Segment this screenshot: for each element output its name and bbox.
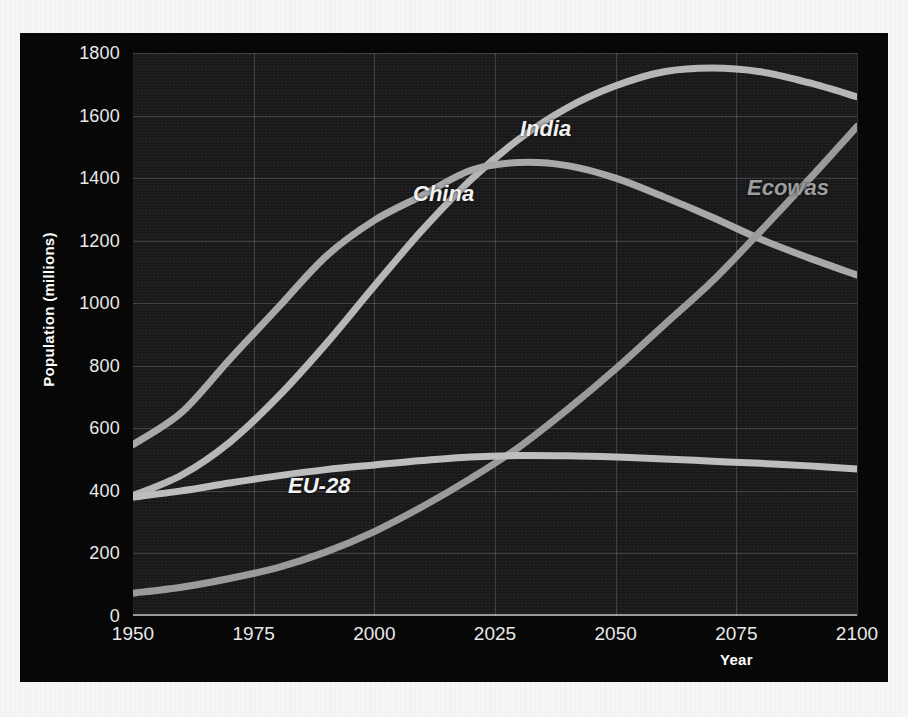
series-label-india: India — [520, 116, 571, 142]
y-axis-tick-labels: 020040060080010001200140016001800 — [20, 53, 120, 616]
y-tick-label: 1800 — [34, 44, 120, 62]
series-lines — [133, 53, 857, 616]
x-axis-title: Year — [720, 651, 753, 668]
x-tick-label: 2025 — [450, 623, 540, 645]
y-tick-label: 400 — [34, 482, 120, 500]
y-axis-title: Population (millions) — [40, 160, 57, 460]
gridline-vertical — [857, 53, 858, 616]
series-label-china: China — [413, 181, 474, 207]
y-tick-label: 1600 — [34, 107, 120, 125]
x-tick-label: 2075 — [691, 623, 781, 645]
page-background: 020040060080010001200140016001800 195019… — [0, 0, 908, 717]
series-label-eu-28: EU-28 — [288, 473, 350, 499]
chart-figure-panel: 020040060080010001200140016001800 195019… — [20, 33, 888, 682]
series-line-china — [133, 162, 857, 444]
x-tick-label: 2000 — [329, 623, 419, 645]
x-axis-tick-labels: 1950197520002025205020752100 — [133, 623, 857, 653]
y-tick-label: 200 — [34, 544, 120, 562]
x-tick-label: 1950 — [88, 623, 178, 645]
x-tick-label: 2050 — [571, 623, 661, 645]
series-line-india — [133, 68, 857, 496]
series-label-ecowas: Ecowas — [747, 175, 829, 201]
x-tick-label: 1975 — [209, 623, 299, 645]
x-tick-label: 2100 — [812, 623, 888, 645]
